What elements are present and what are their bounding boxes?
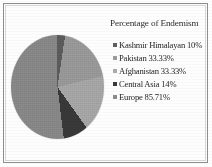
legend-item-label: Pakistan 33.33% bbox=[119, 53, 174, 63]
legend-swatch-icon bbox=[113, 69, 117, 73]
legend-item[interactable]: Pakistan 33.33% bbox=[113, 53, 209, 63]
legend-item-label: Central Asia 14% bbox=[119, 79, 176, 89]
pie-slices bbox=[11, 35, 104, 139]
chart-legend: Kashmir Himalayan 10% Pakistan 33.33% Af… bbox=[113, 40, 209, 105]
chart-figure: Percentage of Endemism Kashmir Himalayan… bbox=[0, 0, 212, 167]
legend-swatch-icon bbox=[113, 56, 117, 60]
legend-item[interactable]: Afghanistan 33.33% bbox=[113, 66, 209, 76]
legend-swatch-icon bbox=[113, 95, 117, 99]
legend-item-label: Afghanistan 33.33% bbox=[119, 66, 186, 76]
legend-item-label: Kashmir Himalayan 10% bbox=[119, 40, 202, 50]
legend-item[interactable]: Central Asia 14% bbox=[113, 79, 209, 89]
chart-title: Percentage of Endemism bbox=[110, 18, 208, 28]
legend-swatch-icon bbox=[113, 43, 117, 47]
legend-item[interactable]: Europe 85.71% bbox=[113, 92, 209, 102]
legend-swatch-icon bbox=[113, 82, 117, 86]
legend-item-label: Europe 85.71% bbox=[119, 92, 170, 102]
pie-chart bbox=[9, 31, 107, 143]
legend-item[interactable]: Kashmir Himalayan 10% bbox=[113, 40, 209, 50]
